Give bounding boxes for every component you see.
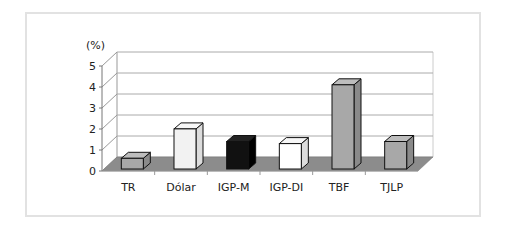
y-tick-label: 2 [89,123,96,136]
bar [227,136,256,170]
bar-chart: (%) 012345 TRDólarIGP-MIGP-DITBFTJLP [0,0,509,234]
y-tick-label: 1 [89,144,96,157]
y-axis-label: (%) [86,39,105,52]
x-tick-label: IGP-M [218,181,250,194]
chart-floor [102,157,433,171]
bar [385,136,414,170]
x-tick-label: TR [120,181,136,194]
gridlines [102,52,433,171]
x-tick-label: Dólar [166,181,196,194]
y-tick-label: 0 [89,165,96,178]
bar [279,138,308,169]
bars [121,79,413,169]
bar [121,152,150,169]
bar [332,79,361,169]
x-tick-label: TJLP [379,181,403,194]
x-tick-label: TBF [328,181,350,194]
y-tick-label: 5 [89,60,96,73]
y-tick-label: 4 [89,81,96,94]
bar [174,123,203,169]
x-tick-label: IGP-DI [269,181,303,194]
y-tick-label: 3 [89,102,96,115]
x-axis-labels: TRDólarIGP-MIGP-DITBFTJLP [120,171,403,194]
